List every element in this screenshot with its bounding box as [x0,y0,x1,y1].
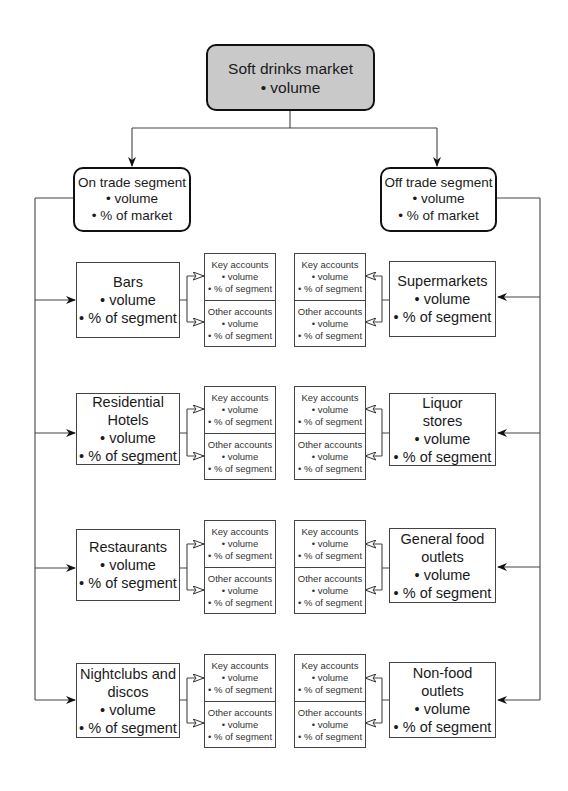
account-title: Other accounts [298,439,362,451]
key-accounts-node: Key accounts • volume • % of segment [205,521,275,567]
account-title: Key accounts [211,660,268,672]
residential-hotels-node: Residential Hotels • volume • % of segme… [76,393,180,465]
other-accounts-node: Other accounts • volume • % of segment [295,433,365,479]
bars-node: Bars • volume • % of segment [76,262,180,338]
on-trade-segment-node: On trade segment • volume • % of market [73,167,191,232]
node-metric: • volume [415,700,471,718]
other-accounts-node: Other accounts • volume • % of segment [295,701,365,747]
account-metric: • % of segment [298,330,362,342]
key-accounts-node: Key accounts • volume • % of segment [295,254,365,300]
account-title: Key accounts [211,526,268,538]
other-accounts-node: Other accounts • volume • % of segment [205,701,275,747]
other-accounts-node: Other accounts • volume • % of segment [295,300,365,346]
node-metric: • % of segment [394,308,492,326]
account-metric: • volume [312,719,349,731]
liquor-stores-accounts: Key accounts • volume • % of segment Oth… [294,386,366,480]
node-metric: • % of segment [79,447,177,465]
node-title: Restaurants [89,538,167,556]
node-title: outlets [421,682,464,700]
node-metric: • % of segment [394,448,492,466]
supermarkets-accounts: Key accounts • volume • % of segment Oth… [294,253,366,347]
node-metric: • % of market [398,208,479,225]
account-metric: • volume [312,451,349,463]
supermarkets-node: Supermarkets • volume • % of segment [389,261,496,337]
other-accounts-node: Other accounts • volume • % of segment [205,567,275,613]
node-title: Off trade segment [385,175,493,192]
account-title: Other accounts [298,573,362,585]
other-accounts-node: Other accounts • volume • % of segment [295,567,365,613]
account-metric: • % of segment [208,684,272,696]
node-title: General food [401,530,485,548]
liquor-stores-node: Liquor stores • volume • % of segment [389,393,496,466]
key-accounts-node: Key accounts • volume • % of segment [205,254,275,300]
account-metric: • volume [222,538,259,550]
node-title: Nightclubs and [80,665,176,683]
account-metric: • % of segment [208,463,272,475]
soft-drinks-market-node: Soft drinks market • volume [206,44,375,111]
node-title: Non-food [413,664,473,682]
node-title: outlets [421,548,464,566]
account-title: Other accounts [208,573,272,585]
key-accounts-node: Key accounts • volume • % of segment [295,521,365,567]
node-metric: • volume [100,701,156,719]
hotels-accounts: Key accounts • volume • % of segment Oth… [204,386,276,480]
account-title: Key accounts [211,392,268,404]
other-accounts-node: Other accounts • volume • % of segment [205,300,275,346]
account-title: Key accounts [301,660,358,672]
key-accounts-node: Key accounts • volume • % of segment [295,655,365,701]
account-title: Other accounts [298,707,362,719]
account-title: Key accounts [301,392,358,404]
account-title: Other accounts [208,707,272,719]
node-metric: • volume [415,290,471,308]
node-title: Hotels [107,411,148,429]
node-title: stores [423,412,463,430]
restaurants-accounts: Key accounts • volume • % of segment Oth… [204,520,276,614]
account-metric: • % of segment [208,550,272,562]
node-metric: • volume [100,556,156,574]
account-metric: • % of segment [298,731,362,743]
restaurants-node: Restaurants • volume • % of segment [76,529,180,601]
node-metric: • volume [415,430,471,448]
account-metric: • % of segment [298,283,362,295]
account-title: Key accounts [211,259,268,271]
non-food-accounts: Key accounts • volume • % of segment Oth… [294,654,366,748]
node-title: On trade segment [78,175,186,192]
account-metric: • volume [312,585,349,597]
account-metric: • % of segment [208,597,272,609]
account-metric: • volume [312,538,349,550]
node-metric: • % of market [92,208,173,225]
account-metric: • volume [222,271,259,283]
node-title: Liquor [422,394,462,412]
account-title: Other accounts [208,439,272,451]
account-metric: • % of segment [208,416,272,428]
general-food-outlets-node: General food outlets • volume • % of seg… [389,528,496,603]
node-metric: • volume [415,566,471,584]
account-metric: • % of segment [298,550,362,562]
off-trade-segment-node: Off trade segment • volume • % of market [380,167,497,232]
general-food-accounts: Key accounts • volume • % of segment Oth… [294,520,366,614]
account-metric: • % of segment [298,684,362,696]
nightclubs-discos-node: Nightclubs and discos • volume • % of se… [76,663,180,738]
node-title: discos [107,683,148,701]
node-metric: • volume [106,191,158,208]
key-accounts-node: Key accounts • volume • % of segment [205,655,275,701]
node-metric: • % of segment [79,574,177,592]
account-title: Key accounts [301,526,358,538]
node-title: Bars [113,273,143,291]
account-metric: • % of segment [208,330,272,342]
account-title: Other accounts [298,306,362,318]
node-metric: • % of segment [79,309,177,327]
account-metric: • volume [222,451,259,463]
node-title: Supermarkets [397,272,487,290]
account-title: Key accounts [301,259,358,271]
account-title: Other accounts [208,306,272,318]
bars-accounts: Key accounts • volume • % of segment Oth… [204,253,276,347]
node-metric: • volume [100,429,156,447]
account-metric: • volume [222,719,259,731]
node-metric: • volume [261,78,321,97]
account-metric: • % of segment [208,731,272,743]
account-metric: • volume [222,585,259,597]
account-metric: • volume [222,672,259,684]
account-metric: • volume [312,318,349,330]
non-food-outlets-node: Non-food outlets • volume • % of segment [389,662,496,738]
